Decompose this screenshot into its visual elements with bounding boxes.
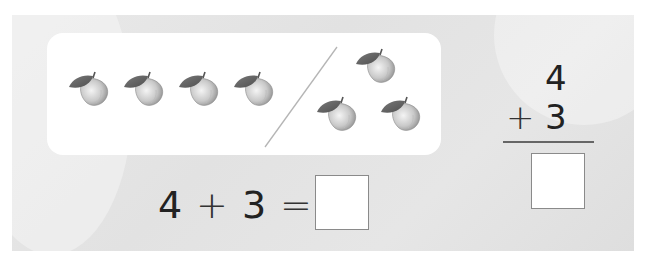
apple-icon <box>122 70 168 108</box>
apple-icon <box>177 70 223 108</box>
horizontal-answer-box[interactable] <box>315 175 369 230</box>
plus-sign: + <box>187 183 237 227</box>
vertical-addend-1: 4 <box>545 58 567 98</box>
apple-icon <box>315 95 361 133</box>
addend-2: 3 <box>237 183 271 227</box>
apple-icon <box>67 70 113 108</box>
apple-icon <box>354 47 400 85</box>
vertical-addend-2: 3 <box>545 97 567 137</box>
equals-sign: = <box>271 183 321 227</box>
vertical-answer-box[interactable] <box>531 153 585 209</box>
apple-icon <box>379 95 425 133</box>
horizontal-equation: 4 + 3 = <box>153 180 321 230</box>
sum-line <box>503 141 594 143</box>
vertical-plus-sign: + <box>506 97 535 137</box>
addend-1: 4 <box>153 183 187 227</box>
apple-icon <box>232 70 278 108</box>
